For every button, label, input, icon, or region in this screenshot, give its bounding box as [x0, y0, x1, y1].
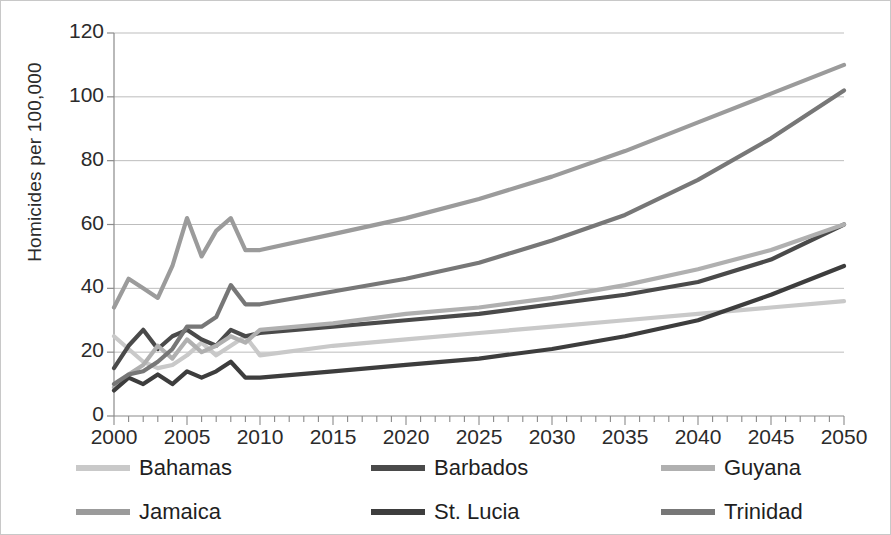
legend-swatch [661, 509, 715, 515]
x-axis-tick-label: 2045 [736, 425, 806, 449]
legend-label: Bahamas [139, 455, 232, 481]
chart-plot-region: Homicides per 100,000 020406080100120 20… [1, 1, 891, 461]
y-axis-tick-label: 120 [48, 19, 104, 43]
y-axis-title: Homicides per 100,000 [24, 52, 46, 272]
legend-item-jamaica[interactable]: Jamaica [76, 499, 221, 525]
x-axis-tick-label: 2040 [663, 425, 733, 449]
legend-swatch [371, 509, 425, 515]
y-axis-tick-label: 20 [48, 338, 104, 362]
x-axis-tick-label: 2010 [225, 425, 295, 449]
legend-label: Guyana [724, 455, 801, 481]
legend-swatch [76, 509, 130, 515]
legend-item-bahamas[interactable]: Bahamas [76, 455, 232, 481]
legend-item-st-lucia[interactable]: St. Lucia [371, 499, 520, 525]
legend-label: St. Lucia [434, 499, 520, 525]
legend-swatch [76, 465, 130, 471]
legend-label: Jamaica [139, 499, 221, 525]
x-axis-tick-label: 2015 [298, 425, 368, 449]
y-axis-tick-label: 100 [48, 83, 104, 107]
chart-svg [1, 1, 891, 461]
x-axis-tick-label: 2025 [444, 425, 514, 449]
legend-label: Trinidad [724, 499, 803, 525]
x-axis-tick-label: 2005 [152, 425, 222, 449]
x-axis-tick-label: 2050 [809, 425, 879, 449]
series-line-st-lucia [114, 266, 844, 390]
x-axis-tick-label: 2000 [79, 425, 149, 449]
legend-label: Barbados [434, 455, 528, 481]
chart-figure: Homicides per 100,000 020406080100120 20… [0, 0, 891, 535]
x-axis-tick-label: 2035 [590, 425, 660, 449]
legend-item-trinidad[interactable]: Trinidad [661, 499, 803, 525]
y-axis-tick-label: 60 [48, 211, 104, 235]
legend-swatch [661, 465, 715, 471]
chart-legend: BahamasBarbadosGuyanaJamaicaSt. LuciaTri… [1, 453, 891, 535]
x-axis-tick-label: 2030 [517, 425, 587, 449]
legend-item-guyana[interactable]: Guyana [661, 455, 801, 481]
legend-swatch [371, 465, 425, 471]
y-axis-tick-label: 40 [48, 274, 104, 298]
y-axis-tick-label: 80 [48, 147, 104, 171]
x-axis-tick-label: 2020 [371, 425, 441, 449]
y-axis-tick-label: 0 [48, 402, 104, 426]
legend-item-barbados[interactable]: Barbados [371, 455, 528, 481]
